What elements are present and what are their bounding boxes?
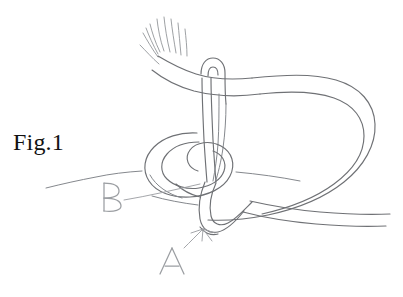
lower-bight xyxy=(199,182,252,235)
frayed-rope-end xyxy=(140,17,187,64)
rope-bight-top xyxy=(201,58,226,104)
callout-b-label-glyph xyxy=(104,183,121,211)
figure-canvas: Fig.1 xyxy=(0,0,403,297)
callout-a-label-glyph xyxy=(160,248,184,274)
figure-caption: Fig.1 xyxy=(13,130,64,154)
callout-a-group xyxy=(160,229,215,274)
standing-part-upper xyxy=(152,56,260,96)
knot-crossing-lines xyxy=(46,171,300,205)
large-loop xyxy=(208,75,390,226)
